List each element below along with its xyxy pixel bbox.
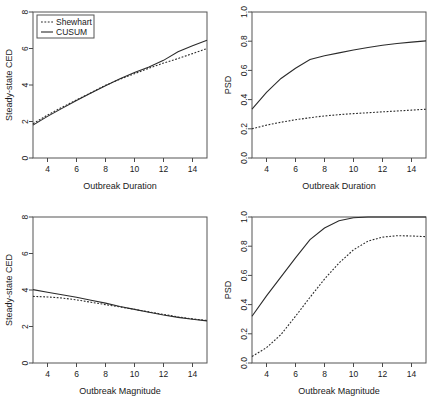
x-tick-label: 8 bbox=[103, 369, 108, 379]
x-tick-label: 6 bbox=[74, 369, 79, 379]
x-tick-label: 12 bbox=[159, 369, 169, 379]
y-tick-label: 0.2 bbox=[239, 328, 249, 340]
y-tick-label: 1.0 bbox=[239, 211, 249, 223]
y-tick-label: 0.0 bbox=[239, 357, 249, 369]
x-tick-label: 6 bbox=[74, 164, 79, 174]
chart-panel-bottom-left: 46810121402468Outbreak MagnitudeSteady-s… bbox=[0, 205, 219, 410]
x-axis-title: Outbreak Duration bbox=[83, 181, 157, 191]
series-line-cusum bbox=[252, 217, 426, 316]
y-tick-label: 0.4 bbox=[239, 298, 249, 310]
series-line-cusum bbox=[33, 40, 207, 125]
series-line-shewhart bbox=[33, 296, 207, 320]
x-axis-title: Outbreak Magnitude bbox=[298, 386, 380, 396]
chart-panel-top-left: 46810121402468Outbreak DurationSteady-st… bbox=[0, 0, 219, 205]
x-tick-label: 4 bbox=[264, 164, 269, 174]
y-tick-label: 8 bbox=[20, 214, 30, 219]
y-tick-label: 0.6 bbox=[239, 64, 249, 76]
y-axis-title: Steady-state CED bbox=[4, 253, 14, 326]
x-tick-label: 8 bbox=[103, 164, 108, 174]
series-line-shewhart bbox=[252, 236, 426, 357]
y-tick-label: 0.0 bbox=[239, 152, 249, 164]
series-line-shewhart bbox=[252, 109, 426, 129]
series-line-cusum bbox=[252, 41, 426, 109]
x-axis-title: Outbreak Duration bbox=[302, 181, 376, 191]
x-tick-label: 10 bbox=[130, 369, 140, 379]
x-tick-label: 8 bbox=[322, 369, 327, 379]
x-tick-label: 14 bbox=[188, 369, 198, 379]
plot-frame bbox=[252, 217, 426, 363]
figure-panel-grid: 46810121402468Outbreak DurationSteady-st… bbox=[0, 0, 438, 410]
plot-frame bbox=[252, 12, 426, 158]
x-tick-label: 10 bbox=[130, 164, 140, 174]
y-axis-title: PSD bbox=[223, 75, 233, 94]
x-tick-label: 14 bbox=[407, 164, 417, 174]
y-axis-title: PSD bbox=[223, 280, 233, 299]
y-tick-label: 0.4 bbox=[239, 93, 249, 105]
y-tick-label: 6 bbox=[20, 251, 30, 256]
series-line-shewhart bbox=[33, 49, 207, 124]
x-tick-label: 14 bbox=[188, 164, 198, 174]
y-tick-label: 0.8 bbox=[239, 240, 249, 252]
y-tick-label: 2 bbox=[20, 119, 30, 124]
series-line-cusum bbox=[33, 290, 207, 321]
chart-panel-top-right: 4681012140.00.20.40.60.81.0Outbreak Dura… bbox=[219, 0, 438, 205]
y-axis-title: Steady-state CED bbox=[4, 48, 14, 121]
x-tick-label: 4 bbox=[45, 369, 50, 379]
x-tick-label: 8 bbox=[322, 164, 327, 174]
y-tick-label: 1.0 bbox=[239, 6, 249, 18]
chart-panel-bottom-right: 4681012140.00.20.40.60.81.0Outbreak Magn… bbox=[219, 205, 438, 410]
x-tick-label: 4 bbox=[45, 164, 50, 174]
y-tick-label: 0.2 bbox=[239, 123, 249, 135]
y-tick-label: 0.8 bbox=[239, 35, 249, 47]
x-tick-label: 10 bbox=[349, 369, 359, 379]
y-tick-label: 0 bbox=[20, 360, 30, 365]
y-tick-label: 0 bbox=[20, 155, 30, 160]
y-tick-label: 4 bbox=[20, 287, 30, 292]
x-tick-label: 12 bbox=[378, 369, 388, 379]
legend-label-cusum: CUSUM bbox=[56, 27, 87, 37]
x-tick-label: 6 bbox=[293, 369, 298, 379]
x-tick-label: 12 bbox=[378, 164, 388, 174]
y-tick-label: 4 bbox=[20, 82, 30, 87]
y-tick-label: 6 bbox=[20, 46, 30, 51]
x-axis-title: Outbreak Magnitude bbox=[79, 386, 161, 396]
x-tick-label: 14 bbox=[407, 369, 417, 379]
y-tick-label: 2 bbox=[20, 324, 30, 329]
legend-label-shewhart: Shewhart bbox=[56, 17, 93, 27]
x-tick-label: 6 bbox=[293, 164, 298, 174]
x-tick-label: 10 bbox=[349, 164, 359, 174]
plot-frame bbox=[33, 217, 207, 363]
y-tick-label: 8 bbox=[20, 9, 30, 14]
x-tick-label: 4 bbox=[264, 369, 269, 379]
y-tick-label: 0.6 bbox=[239, 269, 249, 281]
x-tick-label: 12 bbox=[159, 164, 169, 174]
